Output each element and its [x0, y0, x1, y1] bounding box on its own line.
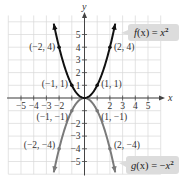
y-tick-label: 2	[76, 68, 81, 78]
g-eq: = −	[149, 160, 166, 171]
x-tick-label: −2	[54, 101, 64, 111]
f-point	[108, 45, 112, 49]
g-point	[70, 109, 74, 113]
point-label: (−2, −4)	[24, 140, 55, 151]
y-tick-label: 3	[76, 55, 81, 65]
f-arg: (x)	[137, 27, 150, 39]
y-tick-label: −5	[70, 157, 80, 167]
x-tick-label: 4	[133, 101, 138, 111]
x-tick-label: 2	[108, 101, 113, 111]
point-label: (1, 1)	[101, 79, 122, 90]
f-eq: =	[149, 27, 160, 38]
svg-text:g(x) = −x2: g(x) = −x2	[131, 159, 174, 172]
g-exponent: 2	[170, 159, 174, 167]
y-tick-label: −2	[70, 119, 80, 129]
f-exponent: 2	[165, 26, 169, 34]
f-point	[95, 84, 99, 88]
x-axis-label: x	[167, 92, 173, 103]
g-arg: (x)	[136, 160, 149, 172]
y-tick-label: 4	[76, 43, 81, 53]
y-tick-label: 5	[76, 30, 81, 40]
x-tick-label: 3	[120, 101, 125, 111]
point-label: (2, 4)	[114, 42, 135, 53]
y-axis-label: y	[81, 1, 87, 12]
point-label: (−1, 1)	[42, 79, 68, 90]
x-axis-arrow-icon	[159, 96, 165, 101]
point-label: (2, −4)	[114, 140, 140, 151]
point-label: (−2, 4)	[29, 42, 55, 53]
y-axis-arrow-icon	[82, 12, 87, 18]
x-tick-label: −5	[16, 101, 26, 111]
g-point	[108, 147, 112, 151]
graph-canvas: −5−4−3−22345−5−4−3−212345 (−2, 4)(−1, 1)…	[0, 0, 180, 184]
point-label: (−1, −1)	[37, 112, 68, 123]
y-tick-label: −3	[70, 131, 80, 141]
f-point	[57, 45, 61, 49]
svg-text:f(x) = x2: f(x) = x2	[134, 26, 169, 39]
y-tick-label: 1	[76, 81, 81, 91]
x-tick-label: −3	[41, 101, 51, 111]
g-point	[95, 109, 99, 113]
g-function-label: g(x) = −x2	[119, 156, 179, 174]
g-point	[57, 147, 61, 151]
f-point	[70, 84, 74, 88]
x-tick-label: 5	[146, 101, 151, 111]
y-tick-label: −4	[70, 144, 80, 154]
f-function-label: f(x) = x2	[121, 24, 179, 41]
x-tick-label: −4	[29, 101, 39, 111]
point-label: (1, −1)	[101, 112, 127, 123]
